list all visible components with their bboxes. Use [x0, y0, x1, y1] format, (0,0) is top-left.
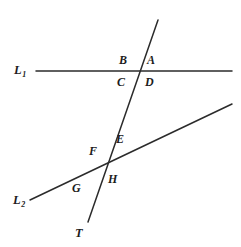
line-label-L1-subscript: 1 — [22, 70, 26, 79]
angle-label-A: A — [147, 54, 155, 66]
line-label-T: T — [75, 227, 83, 240]
angle-label-D: D — [145, 76, 154, 88]
angle-label-B: B — [119, 54, 127, 66]
line-label-T-letter: T — [75, 226, 83, 240]
line-L2 — [30, 104, 232, 200]
angle-label-H: H — [108, 173, 117, 185]
line-label-L1-letter: L — [14, 63, 22, 77]
geometry-figure: L1 L2 T A B C D E F G H — [0, 0, 241, 247]
line-label-L2-subscript: 2 — [21, 200, 25, 209]
geometry-canvas — [0, 0, 241, 247]
line-label-L2: L2 — [13, 194, 25, 207]
angle-label-C: C — [117, 76, 125, 88]
line-label-L1: L1 — [14, 64, 26, 77]
line-transversal-T — [88, 20, 158, 222]
angle-label-F: F — [89, 145, 97, 157]
line-label-L2-letter: L — [13, 193, 21, 207]
angle-label-E: E — [116, 133, 124, 145]
angle-label-G: G — [72, 182, 81, 194]
